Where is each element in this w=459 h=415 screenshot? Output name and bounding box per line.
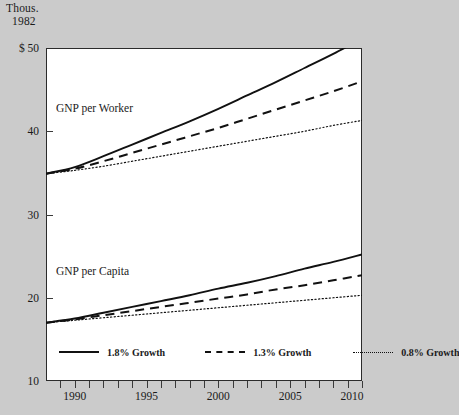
x-tick-mark — [204, 381, 205, 388]
y-tick-mark — [46, 215, 53, 216]
y-tick-label: 30 — [28, 209, 40, 221]
x-tick-mark — [132, 381, 133, 388]
x-tick-mark — [218, 381, 219, 388]
x-tick-mark — [89, 381, 90, 388]
legend-item: 1.8% Growth — [59, 347, 165, 358]
x-tick-label: 2010 — [341, 390, 364, 402]
x-tick-mark — [233, 381, 234, 388]
x-tick-label: 1995 — [135, 390, 158, 402]
x-tick-mark — [175, 381, 176, 388]
x-tick-mark — [319, 381, 320, 388]
series-group-label-worker: GNP per Worker — [56, 102, 133, 114]
y-tick-label: 10 — [28, 375, 40, 387]
x-tick-mark — [362, 381, 363, 388]
x-tick-mark — [333, 381, 334, 388]
legend-label: 1.8% Growth — [107, 347, 165, 358]
x-tick-mark — [261, 381, 262, 388]
x-tick-mark — [276, 381, 277, 388]
legend-item: 0.8% Growth — [353, 347, 459, 358]
y-tick-label: 40 — [28, 125, 40, 137]
legend-swatch-dashed-icon — [205, 348, 245, 356]
x-tick-mark — [75, 381, 76, 388]
x-tick-mark — [290, 381, 291, 388]
x-tick-mark — [348, 381, 349, 388]
plot-area — [46, 48, 362, 381]
legend-label: 0.8% Growth — [401, 347, 459, 358]
x-tick-mark — [118, 381, 119, 388]
y-axis-labels: $ 5040302010 — [0, 0, 39, 415]
x-tick-mark — [60, 381, 61, 388]
legend-label: 1.3% Growth — [253, 347, 311, 358]
y-tick-mark — [46, 298, 53, 299]
chart-legend: 1.8% Growth1.3% Growth0.8% Growth — [47, 344, 361, 360]
y-tick-mark — [46, 131, 53, 132]
y-tick-label: $ 50 — [19, 42, 39, 54]
x-tick-mark — [247, 381, 248, 388]
x-tick-mark — [305, 381, 306, 388]
x-tick-mark — [147, 381, 148, 388]
legend-item: 1.3% Growth — [205, 347, 311, 358]
series-group-label-capita: GNP per Capita — [56, 265, 129, 277]
x-tick-label: 2000 — [207, 390, 230, 402]
x-tick-mark — [161, 381, 162, 388]
x-tick-label: 1990 — [63, 390, 86, 402]
x-tick-mark — [103, 381, 104, 388]
legend-swatch-dotted-icon — [353, 348, 393, 356]
legend-swatch-solid-icon — [59, 348, 99, 356]
x-tick-mark — [190, 381, 191, 388]
x-tick-label: 2005 — [279, 390, 302, 402]
y-tick-label: 20 — [28, 292, 40, 304]
